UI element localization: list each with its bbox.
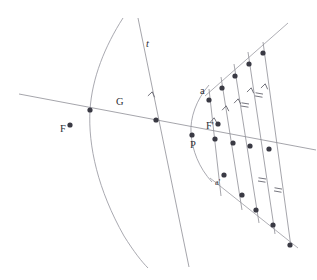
arrow-mark-line-t	[148, 91, 155, 97]
principal-lines	[19, 18, 316, 267]
label-point-a: a	[200, 85, 205, 96]
geometry-figure: F G t a F' P a'	[0, 0, 317, 280]
label-point-a-prime: a'	[215, 177, 221, 187]
upper-dot-4	[260, 50, 265, 55]
upper-ray	[205, 23, 288, 96]
lower-dot-4	[287, 242, 292, 247]
transversal-line-3	[234, 64, 259, 223]
label-focus-left: F	[60, 123, 66, 134]
upper-dot-2	[232, 73, 237, 78]
tick-mark-upper-1	[241, 103, 248, 107]
label-vertex-g: G	[116, 96, 124, 107]
point-labels: F G t a F' P a'	[60, 38, 221, 187]
upper-dot-1	[219, 85, 224, 90]
tick-mark-upper-2	[255, 93, 262, 97]
arrow-mark-5	[261, 83, 268, 89]
tick-mark-lower-1	[258, 178, 265, 182]
tick-mark-lower-2	[274, 188, 281, 192]
focus-f-prime-dot	[215, 121, 220, 126]
point-p-dot	[189, 132, 194, 137]
label-focus-right: F'	[206, 120, 214, 131]
arrow-mark-3	[234, 98, 241, 104]
vertex-dots	[67, 50, 292, 247]
axis-intersection-dot	[153, 117, 158, 122]
label-line-t: t	[146, 38, 150, 49]
lower-dot-2	[253, 207, 258, 212]
line-t	[138, 18, 189, 267]
axis-dot-2	[230, 140, 235, 145]
geometry-canvas: F G t a F' P a'	[0, 0, 317, 280]
lower-dot-3	[270, 222, 275, 227]
lower-dot-1	[239, 192, 244, 197]
transversal-line-4	[248, 52, 275, 234]
axis-dot-1	[212, 136, 217, 141]
lower-ray	[210, 178, 298, 248]
hyperbola-left-branch	[90, 18, 148, 268]
point-a-dot	[206, 97, 211, 102]
upper-dot-3	[246, 61, 251, 66]
axis-dot-4	[266, 146, 271, 151]
label-point-p: P	[190, 139, 196, 150]
focus-f-dot	[67, 122, 72, 127]
axis-dot-3	[247, 143, 252, 148]
point-a-prime-dot	[221, 172, 226, 177]
vertex-g-dot	[87, 107, 92, 112]
